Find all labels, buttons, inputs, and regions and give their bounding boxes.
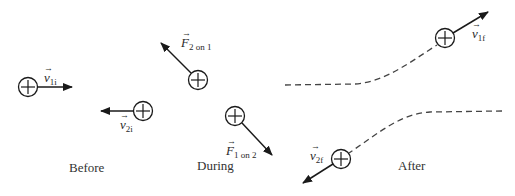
particle-1-during: F2 on 1 →: [161, 28, 211, 90]
vector-arrow-glyph: →: [472, 19, 481, 29]
velocity-arrow-icon: [453, 12, 488, 33]
particle-2-during: F1 on 2 →: [225, 107, 272, 161]
particle-1-before: v1i →: [19, 63, 73, 97]
vector-arrow-glyph: →: [227, 136, 236, 146]
caption-during: During: [197, 158, 234, 173]
particle-2-before: v2i →: [101, 102, 153, 135]
vector-arrow-glyph: →: [311, 141, 320, 151]
trajectory-particle-1: [285, 45, 437, 85]
particle-2-after: v2f →: [303, 141, 351, 183]
caption-after: After: [398, 158, 426, 173]
velocity-arrow-icon: [303, 164, 333, 183]
vector-arrow-glyph: →: [120, 110, 129, 120]
vector-arrow-glyph: →: [182, 28, 191, 38]
caption-before: Before: [69, 160, 105, 175]
collision-diagram: v1i → v2i → F2 on 1 → F1 on 2 →: [0, 0, 515, 196]
vector-arrow-glyph: →: [44, 63, 53, 73]
trajectory-particle-2: [349, 111, 502, 153]
particle-1-after: v1f →: [436, 12, 489, 48]
